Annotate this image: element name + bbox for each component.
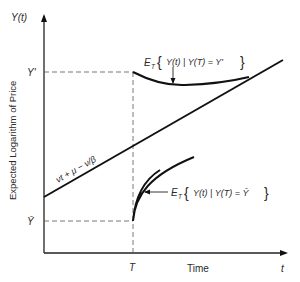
x-axis-label: Time (187, 263, 209, 274)
trend-line (44, 60, 283, 197)
upper-brace-open: { (157, 54, 162, 70)
y-tick-upper: Y' (27, 67, 37, 78)
upper-brace-close: } (240, 54, 245, 70)
upper-conditional-curve (133, 72, 249, 85)
upper-curve-label: E T { Y(t) | Y(T) = Y' } (144, 54, 245, 70)
lower-label-sub: T (178, 193, 183, 200)
upper-label-E: E (144, 57, 151, 68)
y-axis-label: Expected Logarithm of Price (7, 81, 18, 200)
lower-label-body: Y(t) | Y(T) = Ȳ (193, 188, 249, 198)
lower-brace-close: } (264, 185, 269, 201)
y-tick-lower: Ȳ (27, 216, 35, 227)
y-axis-symbol: Y(t) (11, 12, 27, 23)
upper-label-body: Y(t) | Y(T) = Y' (166, 57, 223, 67)
x-axis-symbol: t (281, 263, 285, 274)
upper-label-sub: T (151, 63, 156, 70)
lower-curve-label: E T { Y(t) | Y(T) = Ȳ } (171, 185, 269, 201)
lower-label-E: E (171, 187, 178, 198)
x-tick-T: T (129, 262, 136, 273)
lower-brace-open: { (184, 185, 189, 201)
diagram-canvas: Y(t) Y' Ȳ Expected Logarithm of Price T … (0, 0, 300, 282)
